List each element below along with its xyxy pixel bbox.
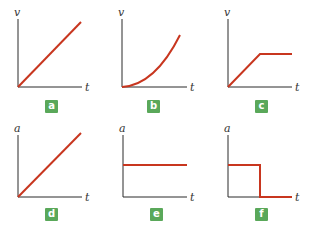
- curve: [228, 165, 292, 197]
- curve: [228, 54, 292, 87]
- x-axis-label: t: [85, 191, 90, 204]
- x-axis-label: t: [85, 81, 90, 94]
- y-axis-label: a: [14, 122, 21, 135]
- graphs-figure: v t v t v t a t a t a: [0, 0, 310, 229]
- panel-badge-d: d: [45, 208, 58, 221]
- x-axis-label: t: [190, 81, 195, 94]
- panel-badge-c: c: [255, 100, 268, 113]
- panel-badge-f: f: [255, 208, 268, 221]
- panel-f: a t: [224, 122, 300, 204]
- panel-b: v t: [118, 6, 195, 94]
- panel-badge-b: b: [147, 100, 160, 113]
- panel-c: v t: [224, 6, 300, 94]
- x-axis-label: t: [295, 81, 300, 94]
- panel-badge-e: e: [150, 208, 163, 221]
- panel-a: v t: [14, 6, 90, 94]
- y-axis-label: v: [14, 6, 21, 19]
- y-axis-label: a: [119, 122, 126, 135]
- x-axis-label: t: [295, 191, 300, 204]
- y-axis-label: a: [224, 122, 231, 135]
- y-axis-label: v: [118, 6, 125, 19]
- panel-badge-a: a: [45, 100, 58, 113]
- panel-d: a t: [14, 122, 90, 204]
- x-axis-label: t: [190, 191, 195, 204]
- y-axis-label: v: [224, 6, 231, 19]
- panel-e: a t: [119, 122, 195, 204]
- curve: [18, 133, 81, 197]
- curve: [18, 22, 81, 87]
- curve: [122, 35, 180, 87]
